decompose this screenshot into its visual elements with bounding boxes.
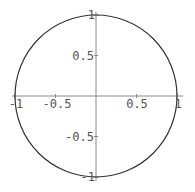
x-tick-label: 1 <box>174 97 181 111</box>
x-tick-label: 0.5 <box>126 97 148 111</box>
x-tick-label: -1 <box>9 97 23 111</box>
y-tick-label: -1 <box>81 170 95 184</box>
circle-plot: -1 -0.5 0.5 1 1 0.5 -0.5 -1 <box>0 0 195 192</box>
y-tick-label: 0.5 <box>72 49 94 63</box>
x-tick-label: -0.5 <box>43 97 72 111</box>
y-tick-label: 1 <box>88 8 95 22</box>
y-tick-label: -0.5 <box>65 130 94 144</box>
